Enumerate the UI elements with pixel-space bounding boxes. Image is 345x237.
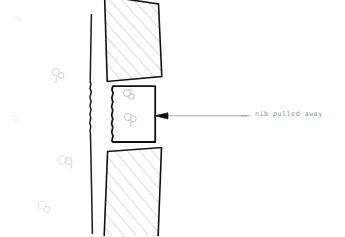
ghost-mark-3 xyxy=(11,115,19,122)
ghost-mark-5 xyxy=(37,200,52,213)
upper-hatched-block xyxy=(105,0,162,82)
annotation-nib-pulled-away: nib pulled away xyxy=(255,111,323,118)
scan-canvas: nib pulled away xyxy=(0,0,345,236)
leader-arrowhead xyxy=(155,113,169,119)
leader-line xyxy=(155,113,251,119)
ghost-mark-2 xyxy=(51,68,65,84)
ghost-mark-4 xyxy=(58,155,73,170)
lower-hatched-block xyxy=(104,148,162,237)
technical-sketch xyxy=(0,0,345,236)
ghost-mark-1 xyxy=(13,15,22,23)
vertical-wall-line xyxy=(90,14,93,234)
